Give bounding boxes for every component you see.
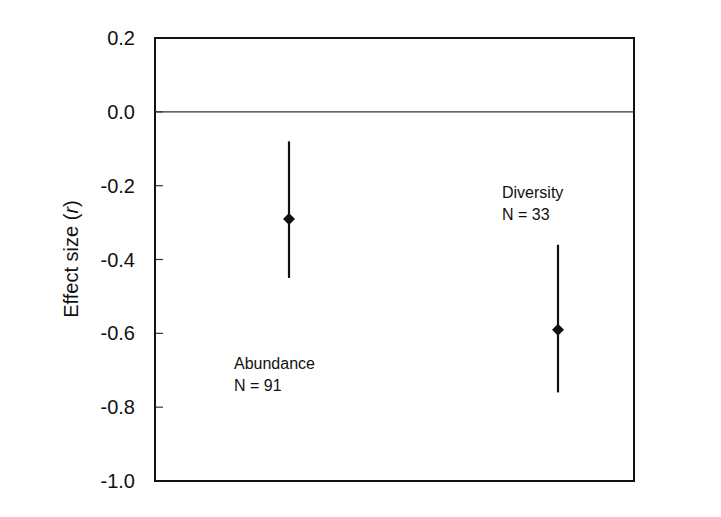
y-tick-label: 0.2	[107, 27, 135, 49]
y-axis-ticks: 0.20.0-0.2-0.4-0.6-0.8-1.0	[101, 27, 163, 492]
diamond-marker	[283, 213, 295, 225]
y-tick-label: -0.2	[101, 175, 135, 197]
data-points	[283, 141, 564, 392]
effect-size-chart: 0.20.0-0.2-0.4-0.6-0.8-1.0 AbundanceN = …	[0, 0, 721, 517]
y-tick-label: -0.8	[101, 396, 135, 418]
y-tick-label: -1.0	[101, 470, 135, 492]
annotation-label: Diversity	[502, 184, 563, 201]
diamond-marker	[552, 324, 564, 336]
y-tick-label: -0.6	[101, 322, 135, 344]
annotations: AbundanceN = 91DiversityN = 33	[234, 184, 563, 394]
plot-frame	[155, 38, 634, 481]
y-axis-label: Effect size (r)	[60, 200, 82, 317]
y-tick-label: -0.4	[101, 249, 135, 271]
y-tick-label: 0.0	[107, 101, 135, 123]
annotation-label: Abundance	[234, 355, 315, 372]
annotation-n: N = 33	[502, 206, 550, 223]
annotation-n: N = 91	[234, 377, 282, 394]
